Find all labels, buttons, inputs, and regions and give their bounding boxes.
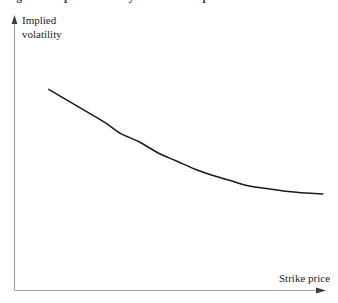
y-axis-label: Implied volatility (22, 14, 62, 41)
implied-volatility-curve (49, 89, 323, 194)
y-axis-label-line2: volatility (22, 28, 62, 42)
x-axis-arrowhead (316, 287, 326, 293)
x-axis-label: Strike price (279, 272, 330, 285)
figure-implied-volatility: Figure 1 Implied volatility versus strik… (0, 0, 338, 303)
y-axis-label-line1: Implied (22, 14, 56, 26)
chart-canvas (0, 0, 338, 303)
y-axis-arrowhead (12, 15, 18, 24)
